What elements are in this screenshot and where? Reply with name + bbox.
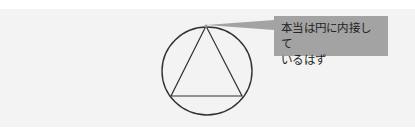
vertex-marker <box>204 24 207 27</box>
callout-text-line2: いるはず <box>281 52 382 68</box>
circle-shape[interactable] <box>162 27 252 115</box>
callout-box[interactable]: 本当は円に内接して いるはず <box>274 16 388 56</box>
callout-text-line1: 本当は円に内接して <box>281 20 382 52</box>
triangle-shape[interactable] <box>171 26 242 96</box>
